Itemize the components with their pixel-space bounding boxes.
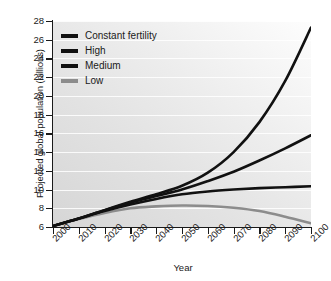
y-tick [46, 190, 52, 191]
y-tick-label: 22 [22, 71, 44, 82]
x-axis-title: Year [53, 262, 313, 273]
y-tick [46, 152, 52, 153]
y-tick-label: 10 [22, 184, 44, 195]
y-tick-label: 18 [22, 109, 44, 120]
legend-swatch-icon [61, 34, 78, 38]
legend-swatch-icon [61, 49, 78, 53]
y-tick [46, 77, 52, 78]
y-tick-label: 16 [22, 127, 44, 138]
legend-label: Medium [85, 60, 121, 71]
y-tick [46, 21, 52, 22]
legend-swatch-icon [61, 79, 78, 83]
y-tick-label: 14 [22, 146, 44, 157]
y-tick-label: 12 [22, 165, 44, 176]
y-tick [46, 133, 52, 134]
y-tick-label: 8 [22, 202, 44, 213]
y-tick-label: 6 [22, 221, 44, 232]
y-axis-line [52, 20, 53, 228]
y-tick-label: 26 [22, 34, 44, 45]
y-axis-title: Projected global population (billions) [34, 19, 45, 229]
y-tick-label: 24 [22, 52, 44, 63]
y-tick [46, 58, 52, 59]
legend-item: Medium [61, 58, 157, 73]
y-tick-label: 20 [22, 90, 44, 101]
y-tick [46, 40, 52, 41]
x-tick-label: 2100 [308, 221, 331, 244]
y-tick [46, 171, 52, 172]
legend-item: Constant fertility [61, 28, 157, 43]
y-tick [46, 227, 52, 228]
legend-item: High [61, 43, 157, 58]
legend-swatch-icon [61, 64, 78, 68]
legend-label: Low [85, 75, 103, 86]
legend-item: Low [61, 73, 157, 88]
y-tick [46, 96, 52, 97]
y-tick [46, 208, 52, 209]
legend-label: Constant fertility [85, 30, 157, 41]
y-tick-label: 28 [22, 15, 44, 26]
y-tick [46, 115, 52, 116]
legend: Constant fertilityHighMediumLow [61, 28, 157, 88]
legend-label: High [85, 45, 106, 56]
